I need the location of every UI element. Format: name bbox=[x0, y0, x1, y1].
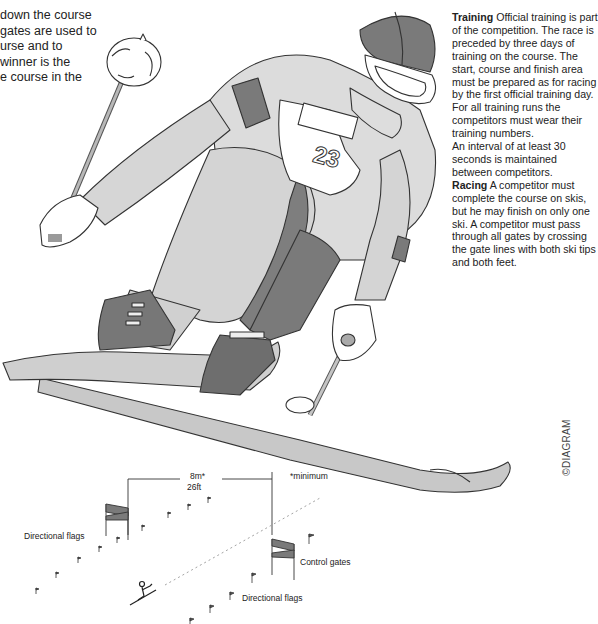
copyright-notice: ©DIAGRAM bbox=[556, 398, 570, 498]
small-skier-icon bbox=[130, 582, 156, 606]
distance-metric-label: 8m* bbox=[190, 471, 205, 481]
training-text-3: An interval of at least 30 seconds is ma… bbox=[452, 140, 566, 178]
intro-text: down the course gates are used to urse a… bbox=[0, 8, 170, 86]
training-heading: Training bbox=[452, 11, 493, 23]
control-gates-label: Control gates bbox=[300, 557, 351, 567]
directional-flags-label-right: Directional flags bbox=[242, 593, 302, 603]
glove-right bbox=[332, 305, 376, 361]
racing-heading: Racing bbox=[452, 179, 487, 191]
minimum-footnote: *minimum bbox=[290, 471, 328, 481]
boot-right bbox=[200, 335, 275, 395]
training-text-2: For all training runs the competitors mu… bbox=[452, 101, 582, 139]
gate-right bbox=[272, 539, 294, 580]
course-diagram bbox=[106, 472, 320, 585]
racing-text: A competitor must complete the course on… bbox=[452, 179, 596, 268]
ski-right bbox=[38, 378, 510, 492]
gate-left bbox=[106, 504, 128, 540]
rules-text: Training Official training is part of th… bbox=[452, 11, 598, 269]
training-text: Official training is part of the competi… bbox=[452, 11, 598, 100]
distance-imperial-label: 26ft bbox=[187, 482, 201, 492]
directional-flags-label-left: Directional flags bbox=[24, 531, 84, 541]
